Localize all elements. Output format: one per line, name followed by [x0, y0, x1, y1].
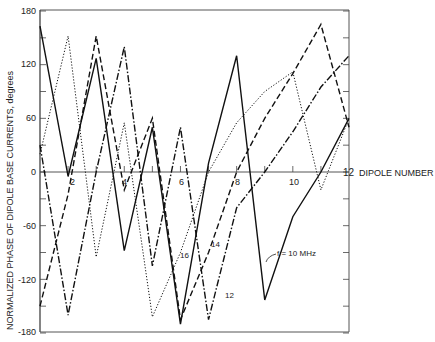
phase-chart: 180 120 60 0 -60 -120 -180 2 4 6 8 10 12…: [0, 0, 435, 342]
x-tick-10: 10: [289, 177, 299, 187]
annotation-14: 14: [211, 240, 220, 249]
y-tick-60: 60: [26, 113, 36, 123]
annotation-12: 12: [225, 291, 234, 300]
series-line-1: [40, 26, 349, 324]
y-tick-120: 120: [21, 59, 36, 69]
x-tick-12: 12: [343, 167, 355, 178]
annotation-arrow: [266, 254, 276, 262]
y-tick-0: 0: [31, 167, 36, 177]
x-axis-label: DIPOLE NUMBER: [359, 168, 434, 178]
y-tick-n180: -180: [18, 327, 36, 337]
series-line-4: [40, 36, 349, 317]
annotation-16: 16: [180, 251, 189, 260]
y-tick-n60: -60: [23, 221, 36, 231]
y-tick-n120: -120: [18, 275, 36, 285]
x-tick-8: 8: [235, 177, 240, 187]
annotation-10mhz: f = 10 MHz: [277, 249, 316, 258]
x-ticks: [68, 166, 321, 172]
y-tick-180: 180: [21, 6, 36, 16]
series-lines: [40, 24, 349, 324]
x-tick-6: 6: [179, 177, 184, 187]
y-axis-label: NORMALIZED PHASE OF DIPOLE BASE CURRENTS…: [5, 70, 15, 330]
series-line-2: [40, 47, 349, 320]
